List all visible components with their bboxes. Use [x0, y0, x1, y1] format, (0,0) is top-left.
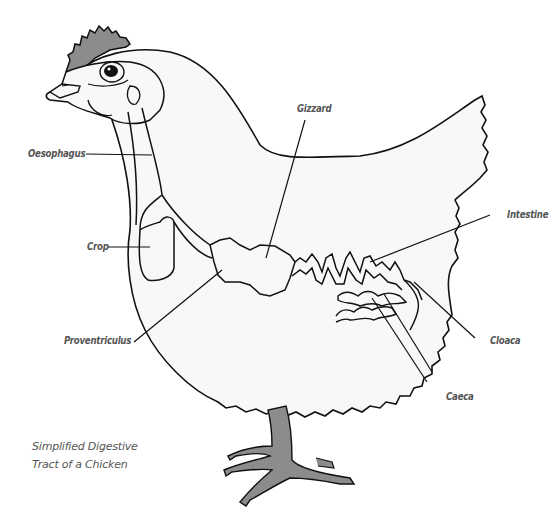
label-cloaca: Cloaca — [490, 334, 520, 346]
diagram-caption: Simplified Digestive Tract of a Chicken — [32, 438, 138, 474]
crop — [139, 217, 174, 280]
label-intestine: Intestine — [507, 208, 548, 220]
eye — [104, 65, 118, 77]
label-caeca: Caeca — [446, 390, 474, 402]
label-crop: Crop — [87, 240, 109, 252]
caption-line-2: Tract of a Chicken — [32, 456, 138, 474]
label-oesophagus: Oesophagus — [28, 147, 85, 159]
legs — [224, 406, 354, 506]
caption-line-1: Simplified Digestive — [32, 438, 138, 456]
ear-lobe — [127, 86, 139, 104]
digestive-tract-diagram: Oesophagus Crop Gizzard Intestine Proven… — [0, 0, 551, 531]
label-proventriculus: Proventriculus — [64, 334, 131, 346]
label-gizzard: Gizzard — [297, 102, 332, 114]
